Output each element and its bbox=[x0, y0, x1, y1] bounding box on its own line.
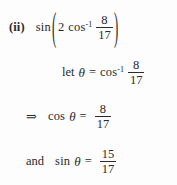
arccos-function-label: cos bbox=[100, 65, 117, 80]
item-label: (ii) bbox=[9, 20, 25, 35]
fraction-numerator: 15 bbox=[100, 148, 117, 161]
fraction-8-17: 8 17 bbox=[95, 103, 112, 131]
theta-symbol: θ bbox=[69, 109, 75, 125]
fraction-numerator: 8 bbox=[98, 103, 108, 116]
fraction-15-17: 15 17 bbox=[100, 148, 117, 176]
fraction-denominator: 17 bbox=[100, 162, 117, 175]
fraction-8-17: 8 17 bbox=[128, 59, 145, 87]
equals-sign: = bbox=[80, 109, 87, 124]
substitution-line: let θ = cos -1 8 17 bbox=[62, 59, 144, 87]
sine-function-label: sin bbox=[36, 20, 51, 35]
fraction-denominator: 17 bbox=[95, 117, 112, 130]
equals-sign: = bbox=[85, 154, 92, 169]
and-keyword: and bbox=[26, 154, 44, 169]
fraction-numerator: 8 bbox=[131, 59, 141, 72]
math-solution-page: (ii) sin ( 2 cos -1 8 17 ) let θ = cos -… bbox=[0, 0, 177, 185]
inverse-exponent: -1 bbox=[117, 65, 124, 74]
sine-function-label: sin bbox=[55, 154, 70, 169]
problem-statement-line: (ii) sin ( 2 cos -1 8 17 ) bbox=[9, 14, 120, 42]
implies-arrow-icon: ⇒ bbox=[26, 110, 37, 123]
equals-sign: = bbox=[89, 65, 96, 80]
fraction-denominator: 17 bbox=[96, 28, 113, 41]
close-paren-glyph: ) bbox=[114, 7, 118, 48]
open-paren-glyph: ( bbox=[52, 7, 56, 48]
fraction-8-17: 8 17 bbox=[96, 14, 113, 42]
arccos-function-label: cos bbox=[68, 20, 85, 35]
fraction-numerator: 8 bbox=[99, 14, 109, 27]
inverse-exponent: -1 bbox=[86, 20, 93, 29]
let-keyword: let bbox=[62, 65, 75, 80]
theta-symbol: θ bbox=[74, 154, 80, 170]
fraction-denominator: 17 bbox=[128, 73, 145, 86]
coefficient-two: 2 bbox=[58, 20, 64, 35]
sine-value-line: and sin θ = 15 17 bbox=[26, 148, 116, 176]
theta-symbol: θ bbox=[79, 65, 85, 81]
cosine-value-line: ⇒ cos θ = 8 17 bbox=[26, 103, 111, 131]
cosine-function-label: cos bbox=[48, 109, 65, 124]
